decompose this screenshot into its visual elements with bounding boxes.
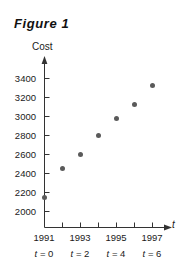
t-value: = 0 [40,248,53,259]
t-variable: t [35,248,38,259]
y-tick-label: 3200 [4,92,36,103]
y-tick-label: 2800 [4,130,36,141]
t-value: = 6 [148,248,161,259]
t-variable: t [107,248,110,259]
x-axis-label: t [172,219,175,230]
scatter-plot: Cost t 3400 3200 3000 2800 2600 2400 220… [0,0,188,266]
y-tick-label: 3400 [4,73,36,84]
x-tick-label-year: 1995 [99,232,133,243]
t-variable: t [143,248,146,259]
x-tick-label-t: t = 6 [132,248,172,259]
t-variable: t [71,248,74,259]
data-point [96,133,101,138]
x-tick-label-t: t = 0 [24,248,64,259]
y-tick-label: 2600 [4,149,36,160]
y-tick-label: 3000 [4,111,36,122]
x-tick-label-t: t = 4 [96,248,136,259]
x-tick-label-t: t = 2 [60,248,100,259]
data-point [42,195,47,200]
y-axis-label: Cost [32,41,53,52]
x-tick-label-year: 1997 [135,232,169,243]
figure-container: Figure 1 Cost [0,0,188,266]
x-tick-label-year: 1991 [27,232,61,243]
t-value: = 4 [112,248,125,259]
y-tick-label: 2400 [4,168,36,179]
x-tick-label-year: 1993 [63,232,97,243]
y-tick-label: 2000 [4,206,36,217]
t-value: = 2 [76,248,89,259]
data-point [150,83,155,88]
y-tick-label: 2200 [4,187,36,198]
data-point [78,152,83,157]
